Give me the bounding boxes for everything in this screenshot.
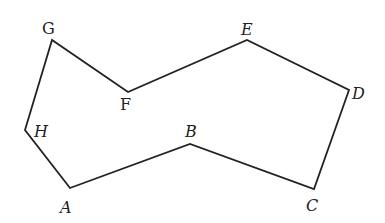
vertex-label-f: F (120, 95, 131, 114)
vertex-label-h: H (33, 122, 49, 141)
octagon-outline (25, 40, 349, 189)
vertex-label-e: E (240, 20, 253, 39)
vertex-label-b: B (184, 122, 197, 141)
vertex-label-g: G (42, 19, 55, 38)
polygon-diagram: A B C D E F G H (0, 0, 385, 223)
vertex-label-a: A (58, 198, 72, 217)
vertex-label-d: D (351, 84, 365, 103)
vertex-label-c: C (306, 196, 318, 215)
